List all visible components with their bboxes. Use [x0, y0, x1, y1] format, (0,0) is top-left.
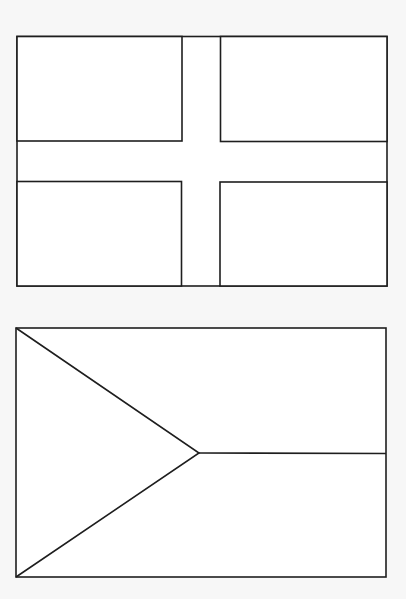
panel-bottom-left	[17, 182, 182, 287]
horizontal-division	[199, 453, 386, 454]
panel-top-left	[17, 37, 182, 142]
coloring-page	[0, 0, 406, 599]
triangle-hoist-flag-outline	[0, 300, 406, 599]
panel-bottom-right	[220, 182, 387, 286]
panel-top-right	[221, 37, 388, 142]
nordic-cross-flag-outline	[0, 0, 406, 300]
